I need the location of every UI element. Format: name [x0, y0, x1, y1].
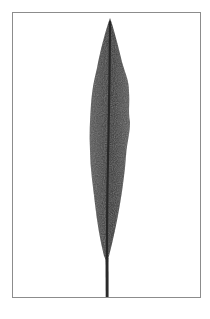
leaf-stem: [106, 258, 109, 297]
leaf-specimen: [0, 0, 210, 319]
